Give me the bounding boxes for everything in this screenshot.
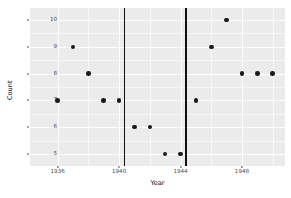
- data-point: [255, 71, 260, 76]
- y-axis-tick-label: 8: [31, 71, 57, 77]
- gridline-major-vertical: [242, 8, 243, 166]
- gridline-major-horizontal: [30, 127, 285, 128]
- y-axis-tick-label: 9: [31, 44, 57, 50]
- y-axis-tick-label: 5: [31, 151, 57, 157]
- gridline-minor-horizontal: [30, 33, 285, 34]
- x-axis-tick-label: 1940: [112, 169, 126, 175]
- scatter-chart: 56789101936194019441948 Year Count: [0, 0, 291, 198]
- y-axis-tick-mark: [27, 153, 29, 154]
- y-axis-tick-mark: [27, 20, 29, 21]
- y-axis-tick-mark: [27, 73, 29, 74]
- gridline-minor-horizontal: [30, 141, 285, 142]
- data-point: [117, 98, 122, 103]
- y-axis-tick-label: 7: [31, 98, 57, 104]
- plot-panel: [30, 8, 285, 166]
- y-axis-tick-label: 6: [31, 124, 57, 130]
- x-axis-tick-mark: [241, 166, 242, 168]
- gridline-major-horizontal: [30, 154, 285, 155]
- gridline-minor-horizontal: [30, 87, 285, 88]
- data-point: [163, 152, 168, 157]
- gridline-minor-vertical: [88, 8, 89, 166]
- data-point: [148, 125, 153, 130]
- x-axis-tick-mark: [180, 166, 181, 168]
- gridline-major-horizontal: [30, 20, 285, 21]
- data-point: [240, 71, 245, 76]
- gridline-major-horizontal: [30, 74, 285, 75]
- y-axis-tick-mark: [27, 127, 29, 128]
- gridline-minor-vertical: [150, 8, 151, 166]
- x-axis-tick-label: 1936: [51, 169, 65, 175]
- data-point: [224, 18, 229, 23]
- gridline-major-horizontal: [30, 47, 285, 48]
- data-point: [209, 45, 214, 50]
- reference-line-vertical: [185, 8, 187, 166]
- gridline-major-horizontal: [30, 100, 285, 101]
- x-axis-tick-mark: [119, 166, 120, 168]
- data-point: [132, 125, 137, 130]
- data-point: [71, 45, 76, 50]
- x-axis-tick-mark: [57, 166, 58, 168]
- gridline-minor-horizontal: [30, 60, 285, 61]
- gridline-minor-vertical: [273, 8, 274, 166]
- x-axis-title: Year: [30, 180, 285, 187]
- y-axis-tick-mark: [27, 46, 29, 47]
- data-point: [178, 152, 183, 157]
- data-point: [194, 98, 199, 103]
- data-point: [101, 98, 106, 103]
- x-axis-tick-label: 1948: [235, 169, 249, 175]
- gridline-minor-vertical: [211, 8, 212, 166]
- gridline-major-vertical: [119, 8, 120, 166]
- x-axis-tick-label: 1944: [173, 169, 187, 175]
- reference-line-vertical: [124, 8, 126, 166]
- y-axis-tick-label: 10: [31, 17, 57, 23]
- gridline-major-vertical: [58, 8, 59, 166]
- gridline-major-vertical: [181, 8, 182, 166]
- y-axis-tick-mark: [27, 100, 29, 101]
- gridline-minor-horizontal: [30, 114, 285, 115]
- y-axis-title: Count: [7, 60, 14, 120]
- data-point: [270, 71, 275, 76]
- data-point: [86, 71, 91, 76]
